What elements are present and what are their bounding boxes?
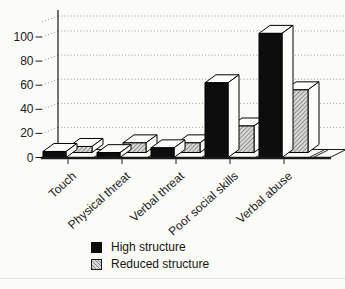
bar-high-structure-0 [43,143,77,157]
y-tick-label: 20 [20,126,34,140]
gridline-depth-segment [42,16,58,22]
legend-item-reduced-structure: Reduced structure [91,258,209,270]
bar-front-face [43,151,66,157]
bar-side-face [228,75,239,158]
bar-chart-3d: 020406080100TouchPhysical threatVerbal t… [0,0,345,240]
bar-front-face [259,33,282,157]
legend-swatch-hatched-icon [91,259,102,270]
bar-side-face [282,25,293,157]
legend-item-high-structure: High structure [91,241,209,253]
category-label: Touch [46,169,79,201]
bar-front-face [151,148,174,158]
category-label: Verbal abuse [234,169,296,226]
gridline-depth-segment [42,103,58,109]
bar-front-face [97,153,120,158]
scan-artifact-rule [0,278,345,279]
bar-high-structure-1 [97,145,131,158]
y-tick-label: 40 [20,102,34,116]
y-tick-label: 80 [20,54,34,68]
bar-side-face [308,82,319,153]
gridline-depth-segment [42,127,58,133]
y-tick-label: 100 [13,30,33,44]
legend-swatch-black-icon [91,242,102,253]
gridline-depth-segment [42,55,58,61]
gridline-depth-segment [42,79,58,85]
bar-high-structure-4 [259,25,293,157]
legend-label-high-structure: High structure [111,241,186,253]
legend-label-reduced-structure: Reduced structure [111,258,209,270]
bar-front-face [205,83,228,158]
y-tick-label: 60 [20,78,34,92]
chart-legend: High structure Reduced structure [91,241,209,270]
gridline-depth-segment [42,31,58,37]
figure-page: 020406080100TouchPhysical threatVerbal t… [0,0,345,289]
bar-high-structure-3 [205,75,239,158]
y-tick-label: 0 [27,151,34,165]
